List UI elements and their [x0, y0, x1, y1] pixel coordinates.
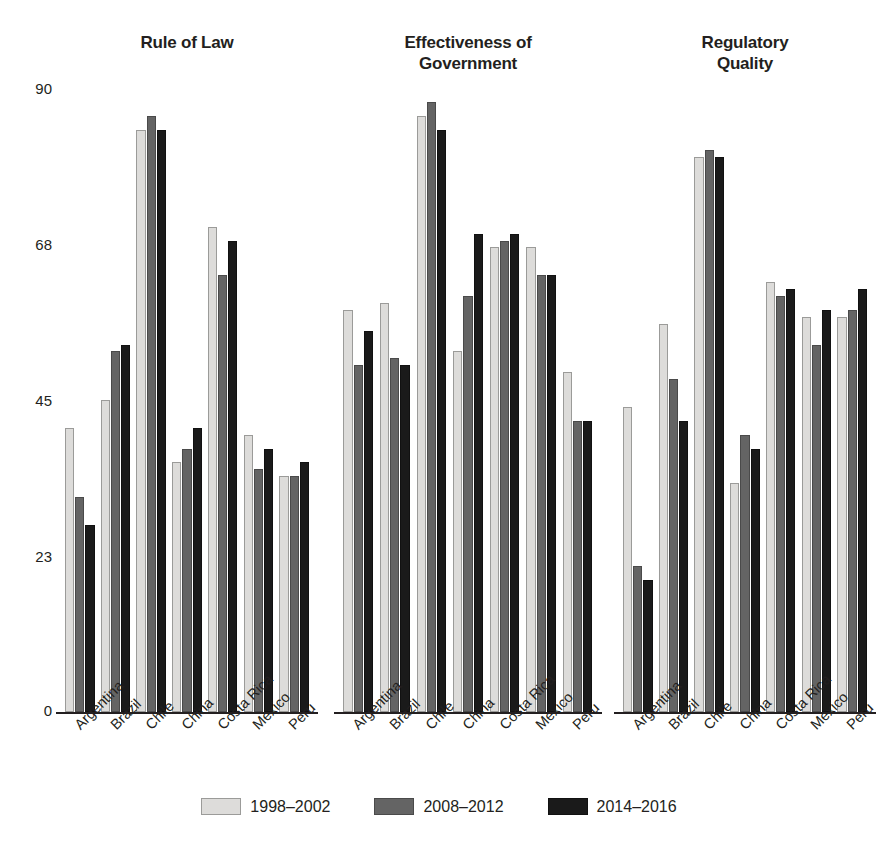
bar[interactable]: [812, 345, 821, 712]
panel-title-regulatory-quality: Regulatory Quality: [620, 32, 870, 74]
bar[interactable]: [659, 324, 668, 712]
bar[interactable]: [822, 310, 831, 712]
bar[interactable]: [669, 379, 678, 712]
bar[interactable]: [364, 331, 373, 712]
bar-group: [413, 88, 450, 712]
bar[interactable]: [354, 365, 363, 712]
bar[interactable]: [705, 150, 714, 712]
chart-figure: 90 68 45 23 0 Rule of Law Effectiveness …: [0, 0, 878, 848]
bar[interactable]: [463, 296, 472, 712]
bar-group: [169, 88, 205, 712]
bar[interactable]: [182, 449, 191, 712]
bar[interactable]: [547, 275, 556, 712]
legend-label: 2014–2016: [597, 799, 677, 815]
legend-swatch-icon: [374, 798, 414, 815]
y-tick-label: 45: [6, 393, 52, 408]
bar-group: [205, 88, 241, 712]
bar[interactable]: [147, 116, 156, 712]
bar[interactable]: [380, 303, 389, 712]
bar-group: [276, 88, 312, 712]
bar[interactable]: [623, 407, 632, 712]
bar[interactable]: [474, 234, 483, 712]
bar-group: [377, 88, 414, 712]
bar[interactable]: [290, 476, 299, 712]
bar[interactable]: [218, 275, 227, 712]
bar[interactable]: [573, 421, 582, 712]
bar[interactable]: [111, 351, 120, 712]
bar[interactable]: [563, 372, 572, 712]
bar-group: [133, 88, 169, 712]
bar[interactable]: [633, 566, 642, 712]
bar[interactable]: [751, 449, 760, 712]
legend-item-2008-2012[interactable]: 2008–2012: [374, 798, 503, 815]
bar-group: [834, 88, 870, 712]
y-tick-label: 23: [6, 549, 52, 564]
bar-group: [763, 88, 799, 712]
bar[interactable]: [679, 421, 688, 712]
panel-rule-of-law: [62, 88, 312, 712]
legend-label: 2008–2012: [423, 799, 503, 815]
bar[interactable]: [417, 116, 426, 712]
legend-item-1998-2002[interactable]: 1998–2002: [201, 798, 330, 815]
bar[interactable]: [490, 247, 499, 712]
bar[interactable]: [453, 351, 462, 712]
bar[interactable]: [500, 241, 509, 712]
bar[interactable]: [101, 400, 110, 712]
bar[interactable]: [715, 157, 724, 712]
legend-item-2014-2016[interactable]: 2014–2016: [548, 798, 677, 815]
bar[interactable]: [228, 241, 237, 712]
bar-group: [450, 88, 487, 712]
bar[interactable]: [848, 310, 857, 712]
bar[interactable]: [157, 130, 166, 712]
bar[interactable]: [776, 296, 785, 712]
bar[interactable]: [437, 130, 446, 712]
bar-group: [486, 88, 523, 712]
bar-group: [559, 88, 596, 712]
bar[interactable]: [244, 435, 253, 712]
bar[interactable]: [121, 345, 130, 712]
bar[interactable]: [510, 234, 519, 712]
bar[interactable]: [786, 289, 795, 712]
y-tick-label: 90: [6, 81, 52, 96]
bar[interactable]: [390, 358, 399, 712]
bar[interactable]: [75, 497, 84, 712]
bar[interactable]: [802, 317, 811, 712]
panel-title-line: Regulatory: [620, 32, 870, 53]
bar[interactable]: [343, 310, 352, 712]
plot-area: [340, 88, 596, 712]
legend-swatch-icon: [201, 798, 241, 815]
bar[interactable]: [400, 365, 409, 712]
y-tick-label: 68: [6, 237, 52, 252]
bar[interactable]: [740, 435, 749, 712]
bar-group: [656, 88, 692, 712]
bar[interactable]: [526, 247, 535, 712]
bar-group: [241, 88, 277, 712]
bar[interactable]: [583, 421, 592, 712]
bar[interactable]: [730, 483, 739, 712]
bar[interactable]: [208, 227, 217, 712]
bar[interactable]: [643, 580, 652, 712]
plot-area: [620, 88, 870, 712]
bar[interactable]: [136, 130, 145, 712]
panel-title-rule-of-law: Rule of Law: [62, 32, 312, 53]
bar[interactable]: [85, 525, 94, 712]
y-axis: 90 68 45 23 0: [0, 0, 52, 848]
bar-group: [340, 88, 377, 712]
bar-group: [98, 88, 134, 712]
bar-group: [62, 88, 98, 712]
bar-group: [727, 88, 763, 712]
bar[interactable]: [279, 476, 288, 712]
bar-group: [691, 88, 727, 712]
bar[interactable]: [300, 462, 309, 712]
bar[interactable]: [193, 428, 202, 712]
bar[interactable]: [172, 462, 181, 712]
legend: 1998–2002 2008–2012 2014–2016: [0, 798, 878, 815]
bar[interactable]: [858, 289, 867, 712]
bar-group: [523, 88, 560, 712]
bar[interactable]: [837, 317, 846, 712]
bar[interactable]: [537, 275, 546, 712]
bar[interactable]: [766, 282, 775, 712]
bar[interactable]: [65, 428, 74, 712]
bar[interactable]: [694, 157, 703, 712]
bar[interactable]: [427, 102, 436, 712]
